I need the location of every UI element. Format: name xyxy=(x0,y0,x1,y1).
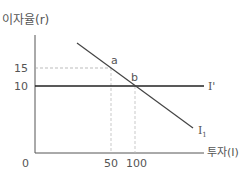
x-tick-100: 100 xyxy=(126,158,147,169)
curve-i1-label-sub: 1 xyxy=(202,131,206,139)
point-a-label: a xyxy=(111,55,118,66)
x-tick-50: 50 xyxy=(104,158,118,169)
curve-i-prime-label: I' xyxy=(208,81,215,92)
y-tick-15: 15 xyxy=(14,63,28,74)
point-b-label: b xyxy=(131,72,138,83)
y-axis-label: 이자율(r) xyxy=(2,14,49,26)
y-tick-10: 10 xyxy=(14,81,28,92)
x-axis-label: 투자(I) xyxy=(207,147,239,158)
origin-label: 0 xyxy=(22,158,29,169)
curve-i1-label: I1 xyxy=(198,125,207,139)
